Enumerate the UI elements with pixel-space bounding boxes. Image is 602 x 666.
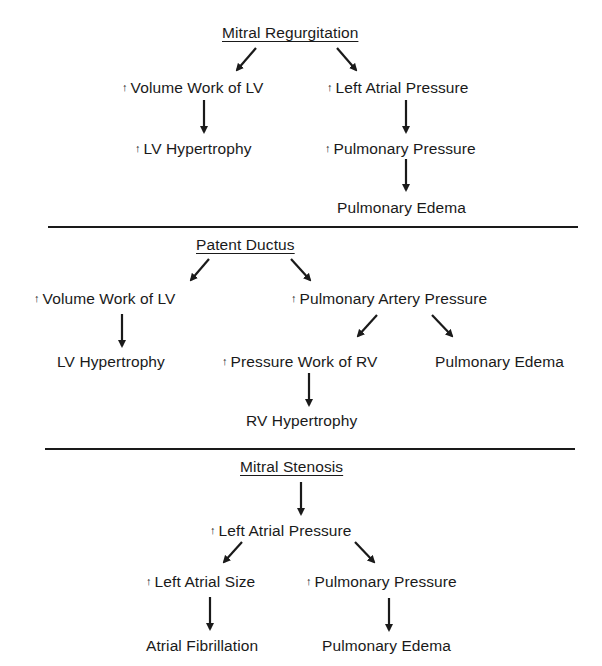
arrow-icon — [191, 259, 209, 280]
node-label: Volume Work of LV — [131, 79, 264, 96]
node-volume-work-lv: ↑Volume Work of LV — [122, 79, 264, 98]
node-left-atrial-size: ↑Left Atrial Size — [146, 573, 255, 592]
arrow-icon — [355, 542, 374, 562]
increase-arrow-icon: ↑ — [210, 524, 216, 536]
node-label: Pulmonary Edema — [322, 637, 451, 654]
arrow-icon — [432, 315, 452, 336]
node-pulmonary-edema: Pulmonary Edema — [435, 353, 564, 371]
node-label: LV Hypertrophy — [144, 140, 252, 157]
increase-arrow-icon: ↑ — [146, 575, 152, 587]
arrow-icon — [358, 315, 377, 336]
node-label: Pressure Work of RV — [231, 353, 378, 370]
node-label: RV Hypertrophy — [246, 412, 357, 429]
arrow-icon — [224, 542, 242, 562]
node-label: Left Atrial Pressure — [336, 79, 469, 96]
arrow-icon — [237, 48, 256, 70]
node-label: Pulmonary Artery Pressure — [300, 290, 488, 307]
arrows-layer — [0, 0, 602, 666]
increase-arrow-icon: ↑ — [34, 292, 40, 304]
increase-arrow-icon: ↑ — [327, 81, 333, 93]
node-lv-hypertrophy: ↑LV Hypertrophy — [135, 140, 252, 159]
node-pulmonary-pressure: ↑Pulmonary Pressure — [306, 573, 457, 592]
section-divider — [45, 448, 575, 450]
section-title: Mitral Regurgitation — [222, 24, 358, 42]
section-title: Patent Ductus — [196, 236, 295, 254]
increase-arrow-icon: ↑ — [222, 355, 228, 367]
increase-arrow-icon: ↑ — [306, 575, 312, 587]
arrow-icon — [337, 48, 356, 70]
node-pressure-work-rv: ↑Pressure Work of RV — [222, 353, 378, 372]
node-pulmonary-edema: Pulmonary Edema — [337, 199, 466, 217]
node-left-atrial-pressure: ↑Left Atrial Pressure — [210, 522, 352, 541]
arrow-icon — [291, 259, 310, 280]
node-label: Pulmonary Pressure — [334, 140, 476, 157]
node-pulmonary-pressure: ↑Pulmonary Pressure — [325, 140, 476, 159]
increase-arrow-icon: ↑ — [122, 81, 128, 93]
node-atrial-fibrillation: Atrial Fibrillation — [146, 637, 258, 655]
node-left-atrial-pressure: ↑Left Atrial Pressure — [327, 79, 469, 98]
node-label: Pulmonary Pressure — [315, 573, 457, 590]
node-lv-hypertrophy: LV Hypertrophy — [57, 353, 165, 371]
increase-arrow-icon: ↑ — [135, 142, 141, 154]
node-volume-work-lv: ↑Volume Work of LV — [34, 290, 176, 309]
node-pulmonary-edema: Pulmonary Edema — [322, 637, 451, 655]
increase-arrow-icon: ↑ — [325, 142, 331, 154]
node-rv-hypertrophy: RV Hypertrophy — [246, 412, 357, 430]
increase-arrow-icon: ↑ — [291, 292, 297, 304]
node-label: Atrial Fibrillation — [146, 637, 258, 654]
node-label: Left Atrial Pressure — [219, 522, 352, 539]
section-title: Mitral Stenosis — [240, 458, 343, 476]
node-label: Pulmonary Edema — [435, 353, 564, 370]
section-divider — [48, 226, 578, 228]
node-label: Left Atrial Size — [155, 573, 256, 590]
node-pulmonary-artery-pressure: ↑Pulmonary Artery Pressure — [291, 290, 487, 309]
node-label: LV Hypertrophy — [57, 353, 165, 370]
node-label: Pulmonary Edema — [337, 199, 466, 216]
node-label: Volume Work of LV — [43, 290, 176, 307]
